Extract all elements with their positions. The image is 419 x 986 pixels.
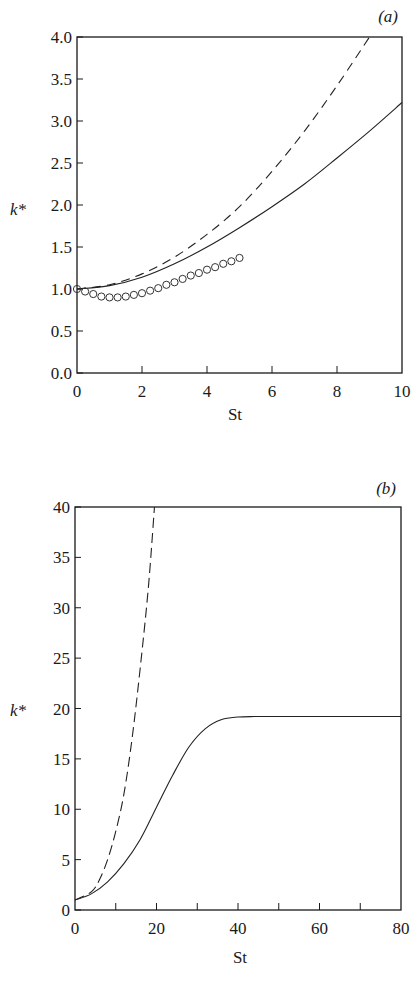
data-point-marker bbox=[195, 269, 202, 276]
panel-b-x-axis: 020406080 bbox=[71, 903, 410, 938]
x-tick-label: 0 bbox=[71, 919, 80, 938]
y-tick-label: 3.5 bbox=[51, 70, 72, 89]
x-tick-label: 6 bbox=[268, 382, 277, 401]
y-tick-label: 0.0 bbox=[51, 364, 72, 383]
data-point-marker bbox=[203, 266, 210, 273]
panel-a-y-axis: 0.00.51.01.52.02.53.03.54.0 bbox=[51, 28, 83, 383]
x-tick-label: 4 bbox=[203, 382, 212, 401]
panel-a-label: (a) bbox=[378, 7, 398, 26]
x-tick-label: 20 bbox=[148, 919, 165, 938]
panel-a-chart: (a) 0.00.51.01.52.02.53.03.54.0 0246810 … bbox=[10, 7, 411, 424]
data-point-marker bbox=[82, 288, 89, 295]
y-tick-label: 0.5 bbox=[51, 322, 72, 341]
y-tick-label: 35 bbox=[53, 548, 70, 567]
y-tick-label: 3.0 bbox=[51, 112, 72, 131]
y-tick-label: 1.5 bbox=[51, 238, 72, 257]
panel-b-chart: (b) 0510152025303540 020406080 St k* bbox=[10, 479, 410, 967]
panel-a-series bbox=[73, 37, 402, 301]
x-tick-label: 2 bbox=[138, 382, 147, 401]
y-tick-label: 2.0 bbox=[51, 196, 72, 215]
data-point-marker bbox=[114, 294, 121, 301]
data-point-marker bbox=[98, 293, 105, 300]
y-tick-label: 4.0 bbox=[51, 28, 72, 47]
x-tick-label: 80 bbox=[393, 919, 410, 938]
y-tick-label: 40 bbox=[53, 498, 70, 517]
y-tick-label: 25 bbox=[53, 649, 70, 668]
panel-b-y-axis-title: k* bbox=[10, 701, 27, 720]
data-point-marker bbox=[155, 285, 162, 292]
data-point-marker bbox=[212, 264, 219, 271]
panel-b-frame bbox=[75, 507, 401, 910]
dashed-curve bbox=[77, 37, 370, 289]
data-point-marker bbox=[147, 287, 154, 294]
x-tick-label: 8 bbox=[333, 382, 342, 401]
panel-b-series bbox=[75, 507, 401, 900]
figure: (a) 0.00.51.01.52.02.53.03.54.0 0246810 … bbox=[0, 0, 419, 986]
y-tick-label: 2.5 bbox=[51, 154, 72, 173]
panel-a-frame bbox=[77, 37, 402, 373]
data-point-marker bbox=[228, 258, 235, 265]
y-tick-label: 30 bbox=[53, 599, 70, 618]
x-tick-label: 0 bbox=[73, 382, 82, 401]
data-point-marker bbox=[122, 293, 129, 300]
panel-b-y-axis: 0510152025303540 bbox=[53, 498, 81, 920]
solid-curve bbox=[75, 717, 401, 900]
x-tick-label: 40 bbox=[230, 919, 247, 938]
data-point-marker bbox=[179, 275, 186, 282]
panel-b-label: (b) bbox=[376, 479, 396, 498]
data-point-marker bbox=[130, 291, 137, 298]
data-point-marker bbox=[236, 254, 243, 261]
panel-a-x-axis-title: St bbox=[228, 405, 242, 424]
data-point-marker bbox=[90, 290, 97, 297]
y-tick-label: 15 bbox=[53, 750, 70, 769]
y-tick-label: 10 bbox=[53, 800, 70, 819]
data-point-marker bbox=[106, 294, 113, 301]
panel-b-x-axis-title: St bbox=[233, 948, 247, 967]
data-point-marker bbox=[163, 281, 170, 288]
data-point-marker bbox=[187, 272, 194, 279]
panel-a-x-axis: 0246810 bbox=[73, 366, 411, 401]
dash-dot-curve bbox=[75, 507, 154, 900]
y-tick-label: 20 bbox=[53, 700, 70, 719]
y-tick-label: 0 bbox=[62, 901, 71, 920]
x-tick-label: 10 bbox=[394, 382, 411, 401]
y-tick-label: 1.0 bbox=[51, 280, 72, 299]
panel-a-y-axis-title: k* bbox=[10, 200, 27, 219]
x-tick-label: 60 bbox=[311, 919, 328, 938]
data-point-marker bbox=[138, 290, 145, 297]
data-point-marker bbox=[171, 279, 178, 286]
data-point-marker bbox=[220, 260, 227, 267]
y-tick-label: 5 bbox=[62, 851, 71, 870]
